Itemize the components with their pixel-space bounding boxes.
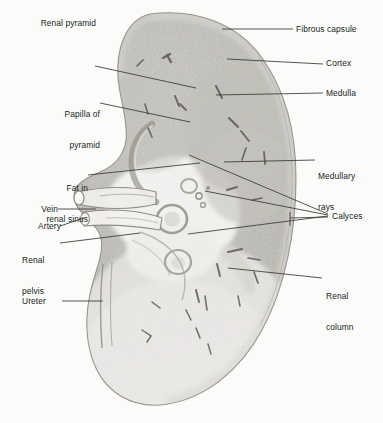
label-renal-column-line-1: Renal [326,291,354,301]
label-renal-column-line-2: column [326,322,354,332]
label-papilla-of-pyramid: Papilla of pyramid [10,88,100,171]
label-renal-column: Renal column [326,270,354,353]
label-calyces: Calyces [332,211,363,221]
label-vein: Vein [41,204,58,214]
label-papilla-line-2: pyramid [10,140,100,150]
label-renal-pelvis-line-2: pelvis [22,286,44,296]
label-papilla-line-1: Papilla of [10,109,100,119]
label-cortex: Cortex [326,58,351,68]
label-fibrous-capsule: Fibrous capsule [296,24,357,34]
label-renal-pyramid: Renal pyramid [41,18,96,28]
label-medullary-rays-line-1: Medullary [318,171,355,181]
kidney-diagram-figure: Renal pyramid Papilla of pyramid Fat in … [0,0,383,423]
label-artery: Artery [38,221,61,231]
label-renal-pelvis-line-1: Renal [22,255,44,265]
label-medulla: Medulla [326,88,356,98]
label-ureter: Ureter [22,296,46,306]
label-fat-line-1: Fat in [4,183,88,193]
